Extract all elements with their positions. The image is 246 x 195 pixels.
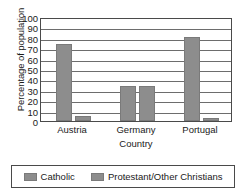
- bar: [120, 86, 136, 121]
- y-axis-tick-label: 90: [16, 24, 38, 33]
- bar-series-container: [41, 19, 231, 121]
- legend-entry: Protestant/Other Christians: [91, 172, 223, 182]
- y-axis-tick-labels: 1009080706050403020100: [16, 18, 38, 122]
- y-axis-tick-label: 100: [16, 14, 38, 23]
- y-axis-tick-label: 20: [16, 97, 38, 106]
- x-axis-tick-label: Germany: [104, 124, 168, 136]
- chart-legend: CatholicProtestant/Other Christians: [11, 165, 235, 188]
- bar: [139, 86, 155, 121]
- x-axis-tick-label: Portugal: [168, 124, 232, 136]
- bar: [75, 116, 91, 121]
- y-axis-tick-label: 50: [16, 66, 38, 75]
- legend-label: Protestant/Other Christians: [108, 172, 223, 182]
- legend-entry: Catholic: [24, 172, 75, 182]
- plot-frame: [40, 18, 232, 122]
- y-axis-tick-label: 0: [16, 118, 38, 127]
- bar: [56, 44, 72, 121]
- y-axis-tick-label: 70: [16, 45, 38, 54]
- legend-label: Catholic: [41, 172, 75, 182]
- y-axis-tick-label: 40: [16, 76, 38, 85]
- bar-chart-figure: Percentage of population 100908070605040…: [0, 0, 246, 195]
- legend-swatch-icon: [91, 173, 104, 181]
- x-axis-tick-labels: AustriaGermanyPortugal: [40, 124, 232, 138]
- x-axis-title: Country: [40, 138, 232, 149]
- y-axis-tick-label: 60: [16, 55, 38, 64]
- y-axis-tick-label: 30: [16, 86, 38, 95]
- x-axis-tick-label: Austria: [40, 124, 104, 136]
- bar: [184, 37, 200, 121]
- legend-swatch-icon: [24, 173, 37, 181]
- chart-plot-region: Percentage of population 100908070605040…: [0, 2, 246, 158]
- y-axis-tick-label: 80: [16, 34, 38, 43]
- bar: [203, 118, 219, 121]
- y-axis-tick-label: 10: [16, 107, 38, 116]
